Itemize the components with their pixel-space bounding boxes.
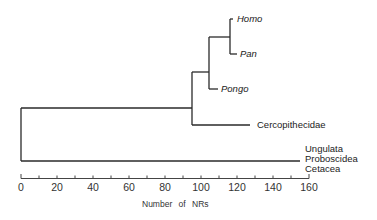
leaf-label-pan: Pan: [240, 49, 257, 59]
leaf-label-cetacea: Cetacea: [305, 164, 340, 174]
x-axis-title: Number of NRs: [142, 199, 209, 209]
leaf-label-pongo: Pongo: [221, 84, 248, 94]
tick-label-140: 140: [264, 182, 282, 193]
tick-label-120: 120: [228, 182, 246, 193]
tick-label-20: 20: [51, 182, 63, 193]
tick-label-80: 80: [159, 182, 171, 193]
tick-label-40: 40: [87, 182, 99, 193]
tick-label-160: 160: [300, 182, 318, 193]
leaf-label-cercopithecidae: Cercopithecidae: [257, 120, 326, 130]
tick-label-0: 0: [18, 182, 24, 193]
tick-label-60: 60: [123, 182, 135, 193]
x-axis: [21, 174, 309, 179]
leaf-label-homo: Homo: [237, 14, 262, 24]
tick-label-100: 100: [192, 182, 210, 193]
